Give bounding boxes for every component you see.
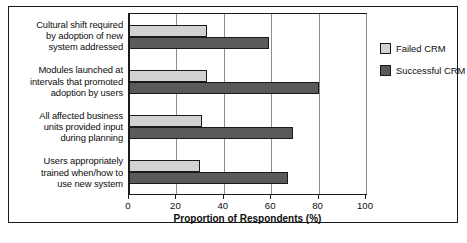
category-label-line: system addressed bbox=[49, 41, 123, 52]
category-label-line: use new system bbox=[57, 178, 123, 189]
legend-label: Failed CRM bbox=[396, 43, 446, 54]
legend-label: Successful CRM bbox=[396, 65, 465, 76]
legend-swatch-icon bbox=[380, 43, 391, 54]
tick-mark-0 bbox=[128, 195, 129, 199]
category-label-users-trained: Users appropriately trained when/how to … bbox=[9, 150, 127, 196]
category-label-line: units provided input bbox=[44, 121, 123, 132]
x-axis: 020406080100 Proportion of Respondents (… bbox=[128, 195, 367, 229]
bar-groups bbox=[129, 14, 366, 194]
bar-failed-crm[interactable] bbox=[129, 160, 200, 172]
category-axis: Cultural shift required by adoption of n… bbox=[9, 13, 127, 195]
tick-mark-20 bbox=[175, 195, 176, 199]
tick-label-60: 60 bbox=[265, 200, 276, 211]
category-label-cultural-shift: Cultural shift required by adoption of n… bbox=[9, 13, 127, 59]
bar-row bbox=[129, 37, 366, 49]
bar-failed-crm[interactable] bbox=[129, 70, 207, 82]
category-label-line: during planning bbox=[60, 132, 123, 143]
category-label-line: by adoption of new bbox=[46, 30, 123, 41]
category-label-modules-launched: Modules launched at intervals that promo… bbox=[9, 59, 127, 105]
bar-failed-crm[interactable] bbox=[129, 115, 202, 127]
category-label-line: Modules launched at bbox=[38, 64, 123, 75]
chart-legend: Failed CRM Successful CRM bbox=[380, 43, 467, 87]
tick-label-0: 0 bbox=[125, 200, 130, 211]
legend-swatch-icon bbox=[380, 65, 391, 76]
legend-item-failed-crm: Failed CRM bbox=[380, 43, 467, 54]
category-label-line: All affected business bbox=[39, 110, 123, 121]
bar-row bbox=[129, 127, 366, 139]
bar-group bbox=[129, 149, 366, 194]
bar-failed-crm[interactable] bbox=[129, 25, 207, 37]
bar-row bbox=[129, 172, 366, 184]
category-label-line: intervals that promoted bbox=[30, 76, 123, 87]
bar-row bbox=[129, 25, 366, 37]
bar-successful-crm[interactable] bbox=[129, 172, 288, 184]
tick-mark-100 bbox=[365, 195, 366, 199]
category-label-business-units: All affected business units provided inp… bbox=[9, 104, 127, 150]
bar-successful-crm[interactable] bbox=[129, 127, 293, 139]
category-label-line: trained when/how to bbox=[41, 167, 123, 178]
bar-successful-crm[interactable] bbox=[129, 82, 319, 94]
bar-row bbox=[129, 160, 366, 172]
tick-mark-60 bbox=[270, 195, 271, 199]
legend-item-successful-crm: Successful CRM bbox=[380, 65, 467, 76]
tick-mark-80 bbox=[318, 195, 319, 199]
tick-label-20: 20 bbox=[170, 200, 181, 211]
category-label-line: Users appropriately bbox=[44, 155, 123, 166]
category-label-line: adoption by users bbox=[51, 87, 123, 98]
bar-row bbox=[129, 82, 366, 94]
x-axis-title: Proportion of Respondents (%) bbox=[128, 213, 367, 224]
category-label-line: Cultural shift required bbox=[36, 19, 123, 30]
figure-frame: Cultural shift required by adoption of n… bbox=[8, 6, 458, 223]
tick-label-40: 40 bbox=[217, 200, 228, 211]
bar-group bbox=[129, 104, 366, 149]
gridline-100 bbox=[366, 14, 367, 194]
plot-area bbox=[128, 13, 367, 195]
bar-row bbox=[129, 70, 366, 82]
tick-label-100: 100 bbox=[357, 200, 373, 211]
tick-mark-40 bbox=[223, 195, 224, 199]
bar-group bbox=[129, 59, 366, 104]
bar-group bbox=[129, 14, 366, 59]
bar-successful-crm[interactable] bbox=[129, 37, 269, 49]
tick-label-80: 80 bbox=[312, 200, 323, 211]
bar-row bbox=[129, 115, 366, 127]
